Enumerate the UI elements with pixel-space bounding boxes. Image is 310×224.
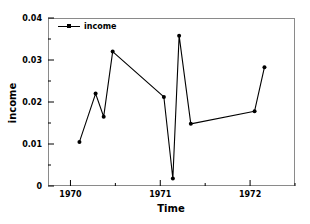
chart-root: 197019711972 00.010.020.030.04 income Ti… [0, 0, 310, 224]
legend: income [58, 22, 116, 31]
y-axis-ticks [48, 18, 54, 186]
y-axis-title-wrapper: income [14, 0, 15, 224]
x-axis-title: Time [157, 203, 184, 214]
legend-label-income: income [84, 22, 116, 31]
x-tick-label: 1970 [59, 190, 81, 199]
x-tick-label: 1971 [149, 190, 171, 199]
legend-line-marker-icon [58, 22, 80, 31]
data-series-income [77, 34, 266, 181]
x-axis-ticks [70, 180, 295, 186]
x-tick-label: 1972 [239, 190, 261, 199]
y-axis-title: income [7, 83, 18, 124]
